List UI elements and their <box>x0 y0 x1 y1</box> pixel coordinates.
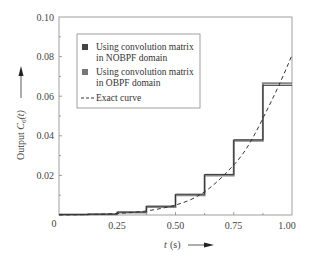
y-axis-label: Output C6(t) <box>15 66 28 160</box>
svg-text:Using convolution matrix: Using convolution matrix <box>96 42 194 52</box>
y-tick-label: 0.02 <box>37 170 55 181</box>
legend-swatch-obpf <box>82 69 88 75</box>
x-axis-label: t (s) <box>164 239 214 251</box>
y-tick-label: 0.06 <box>37 91 55 102</box>
svg-text:Output C6(t): Output C6(t) <box>15 109 28 160</box>
svg-text:Exact curve: Exact curve <box>96 93 141 103</box>
chart: 0.10 0.08 0.06 0.04 0.02 0 0.25 0.50 0.7… <box>0 0 310 261</box>
x-tick-label: 0.25 <box>108 220 126 231</box>
x-tick-label: 1.00 <box>278 220 296 231</box>
origin-label: 0 <box>52 218 57 229</box>
x-tick-label: 0.50 <box>167 220 185 231</box>
y-tick-label: 0.08 <box>37 51 55 62</box>
svg-text:Using convolution matrix: Using convolution matrix <box>96 67 194 77</box>
legend: Using convolution matrix in NOBPF domain… <box>77 34 200 108</box>
svg-text:t: t <box>164 239 167 250</box>
svg-text:in NOBPF domain: in NOBPF domain <box>96 53 168 63</box>
y-tick-label: 0.10 <box>37 12 55 23</box>
svg-text:(s): (s) <box>170 239 181 251</box>
svg-text:in OBPF domain: in OBPF domain <box>96 78 161 88</box>
y-tick-label: 0.04 <box>37 130 55 141</box>
x-tick-label: 0.75 <box>225 220 243 231</box>
legend-swatch-nobpf <box>82 44 88 50</box>
